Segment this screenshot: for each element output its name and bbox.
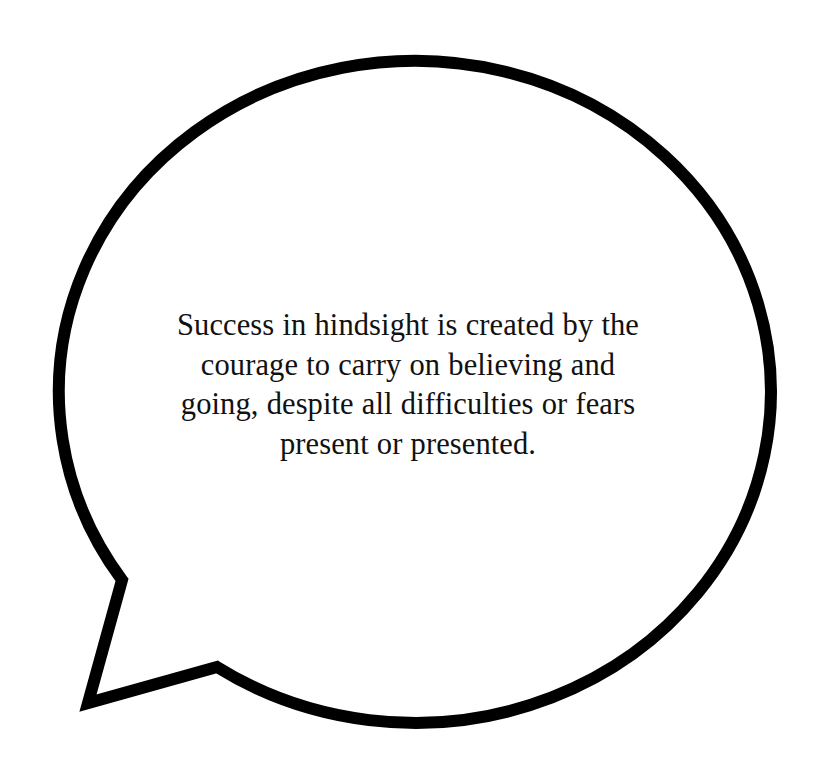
speech-bubble-outline <box>59 61 771 723</box>
bubble-body-path <box>59 61 771 723</box>
speech-bubble-graphic <box>0 0 816 775</box>
image-canvas: Success in hindsight is created by the c… <box>0 0 816 775</box>
